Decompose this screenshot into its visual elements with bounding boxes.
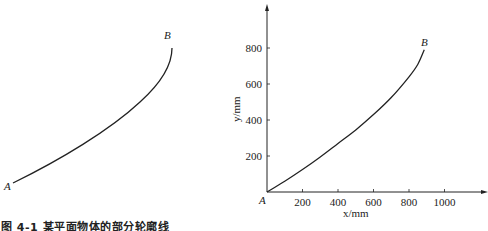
left-point-b-label: B: [164, 29, 171, 41]
x-tick-label: 800: [401, 196, 418, 208]
y-ticks: 200400600800: [246, 42, 271, 162]
x-tick-label: 200: [294, 196, 311, 208]
y-tick-label: 200: [246, 150, 263, 162]
y-tick-label: 800: [246, 42, 263, 54]
left-point-a-label: A: [3, 180, 11, 192]
origin-label: A: [258, 194, 266, 206]
chart-axes: [265, 4, 488, 194]
x-axis-label: x/mm: [343, 207, 369, 219]
end-point-label: B: [421, 36, 428, 48]
x-tick-label: 1000: [434, 196, 457, 208]
y-axis-arrow-icon: [265, 4, 269, 11]
x-axis-arrow-icon: [481, 190, 488, 194]
figure-canvas: A B 2004006008001000 200400600800 A B x/…: [0, 0, 488, 231]
chart-contour-curve: [267, 50, 424, 192]
left-contour-curve: [13, 48, 172, 183]
y-tick-label: 400: [246, 114, 263, 126]
figure-caption: 图 4-1 某平面物体的部分轮廓线: [1, 218, 169, 231]
y-tick-label: 600: [246, 78, 263, 90]
y-axis-label: y/mm: [230, 96, 242, 122]
